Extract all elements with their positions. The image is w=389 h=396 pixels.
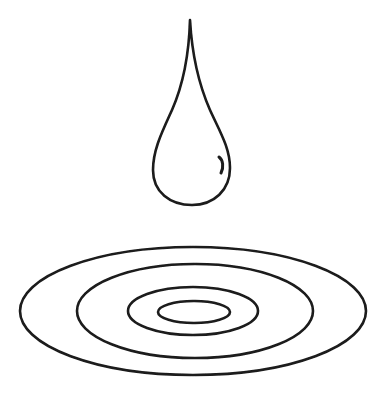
- ripple-second: [77, 264, 313, 358]
- ripples-icon: [20, 247, 366, 375]
- drop-outline: [153, 20, 230, 205]
- illustration-canvas: Water drop and ripples: [0, 0, 389, 396]
- drop-ripple-illustration: [0, 0, 389, 396]
- water-drop-icon: [153, 20, 230, 205]
- ripple-inner: [158, 301, 230, 323]
- ripple-third: [128, 287, 258, 335]
